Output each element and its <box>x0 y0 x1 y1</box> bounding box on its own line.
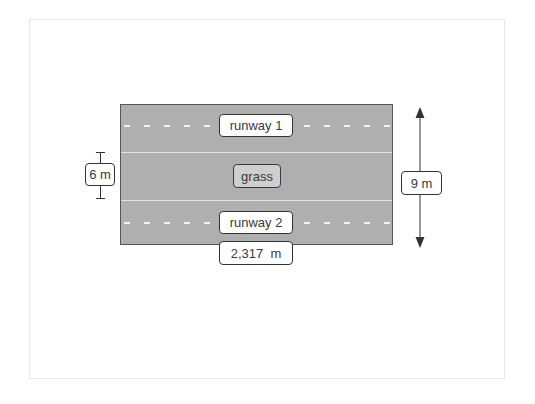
runway-1-centerline-left <box>121 125 211 127</box>
grass-runway-2-boundary <box>121 200 392 201</box>
runway-1-label: runway 1 <box>219 114 293 137</box>
runway-2-label: runway 2 <box>219 211 293 234</box>
runway-1-grass-boundary <box>121 152 392 153</box>
grass-label: grass <box>233 164 281 188</box>
grass-width-bottom-cap <box>96 198 105 199</box>
total-width-label: 9 m <box>401 171 442 195</box>
runway-2-centerline-right <box>302 222 391 224</box>
grass-width-top-cap <box>96 152 105 153</box>
grass-width-label: 6 m <box>85 163 115 186</box>
length-dimension-label: 2,317 m <box>219 241 293 265</box>
runway-2-centerline-left <box>121 222 211 224</box>
runway-1-centerline-right <box>302 125 391 127</box>
